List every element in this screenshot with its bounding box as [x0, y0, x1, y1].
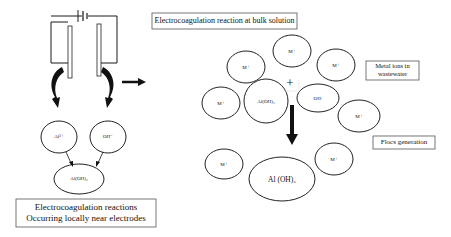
anode-electrode	[68, 26, 72, 78]
right-title: Electrocoagulation reaction at bulk solu…	[152, 17, 297, 25]
left-caption-line2: Occurring locally near electrodes	[16, 214, 156, 223]
oh-ion-label: OH⁻	[98, 134, 118, 139]
plus-sign: +	[283, 76, 297, 89]
metal-ion-label-5: M⁺	[349, 114, 369, 119]
metal-ion-label-6: M⁺	[214, 162, 234, 167]
right-arrow-icon	[122, 78, 146, 86]
metal-ion-label-7: M⁺	[324, 157, 344, 162]
al-oh3-bulk-label: Al(OH)₃	[251, 99, 281, 104]
cathode-electrode	[97, 24, 101, 76]
metal-ion-label-3: M⁺	[326, 63, 346, 68]
al-ion-label: Al³⁺	[49, 134, 69, 139]
down-arrow-icon	[286, 105, 298, 145]
curved-arrow-right-icon	[101, 67, 114, 108]
circuit	[51, 10, 117, 63]
curved-arrow-left-icon	[51, 67, 64, 108]
al-oh3-label: Al(OH)₃	[64, 176, 94, 181]
metal-ions-label-line2: wastewater	[366, 71, 419, 78]
metal-ion-label-1: M⁺	[236, 65, 256, 70]
floc-label: Al (OH)₃	[259, 176, 305, 184]
oh-bulk-label: OH-	[308, 96, 328, 101]
left-caption-line1: Electrocoagulation reactions	[16, 203, 156, 212]
metal-ion-label-4: M⁺	[211, 101, 231, 106]
metal-ions-label-line1: Metal ions in	[366, 63, 419, 70]
flocs-label: Flocs generation	[373, 139, 435, 146]
metal-ion-label-2: M⁺	[282, 49, 302, 54]
